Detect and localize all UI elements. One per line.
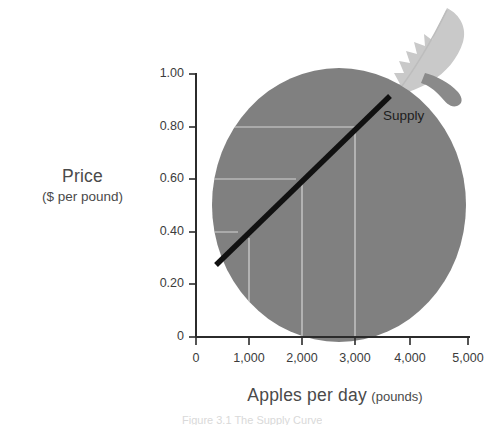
figure-caption: Figure 3.1 The Supply Curve (182, 414, 322, 425)
x-axis-title: Apples per day (pounds) (185, 385, 485, 406)
x-tick-label-6: 5,000 (440, 351, 493, 365)
x-tick-label-4: 3,000 (327, 351, 383, 365)
supply-curve-label: Supply (383, 108, 424, 123)
x-axis-title-main: Apples per day (247, 385, 367, 405)
x-tick-label-3: 2,000 (274, 351, 330, 365)
apple-stem-icon (421, 73, 462, 106)
x-axis-title-sub: (pounds) (371, 389, 422, 404)
y-tick-label-5: 0.20 (142, 276, 184, 290)
x-tick-label-5: 4,000 (382, 351, 438, 365)
y-axis-title-main: Price (0, 165, 165, 187)
y-axis-title-sub: ($ per pound) (0, 188, 165, 205)
y-tick-label-2: 0.80 (142, 119, 184, 133)
y-tick-label-6: 0 (142, 329, 184, 343)
y-tick-label-1: 1.00 (142, 66, 184, 80)
apple-body-shape (212, 68, 466, 342)
y-axis-ticks (189, 74, 196, 337)
y-tick-label-4: 0.40 (142, 224, 184, 238)
supply-curve-figure: 1.00 0.80 0.60 0.40 0.20 0 0 1,000 2,000… (0, 0, 493, 425)
x-tick-label-2: 1,000 (221, 351, 277, 365)
y-axis-title: Price ($ per pound) (0, 165, 165, 206)
x-tick-label-1: 0 (168, 351, 224, 365)
